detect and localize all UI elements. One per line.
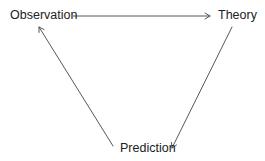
edge-theory-to-prediction	[172, 27, 232, 148]
node-theory: Theory	[218, 9, 257, 22]
edge-prediction-to-observation	[39, 27, 113, 146]
diagram-canvas	[0, 0, 265, 161]
node-prediction: Prediction	[120, 142, 176, 155]
node-observation: Observation	[10, 9, 77, 22]
